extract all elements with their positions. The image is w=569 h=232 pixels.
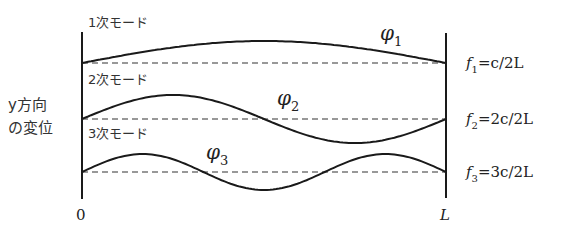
mode2-label: 2次モード — [88, 72, 148, 87]
phi3-label: φ3 — [206, 140, 228, 168]
phi1-label: φ1 — [380, 21, 402, 49]
x-start-label: 0 — [76, 206, 86, 224]
y-axis-label-line1: y方向 — [8, 96, 47, 114]
vibration-modes-diagram: 1次モード 2次モード 3次モード y方向 の変位 φ1 φ2 φ3 f1=c/… — [0, 0, 569, 232]
mode1-label: 1次モード — [88, 15, 148, 30]
y-axis-label-line2: の変位 — [8, 119, 53, 137]
mode3-label: 3次モード — [88, 126, 148, 141]
freq2-label: f2=2c/2L — [465, 110, 533, 131]
x-end-label: L — [439, 206, 450, 224]
phi2-label: φ2 — [277, 86, 299, 114]
freq1-label: f1=c/2L — [465, 54, 524, 75]
freq3-label: f3=3c/2L — [465, 163, 533, 184]
